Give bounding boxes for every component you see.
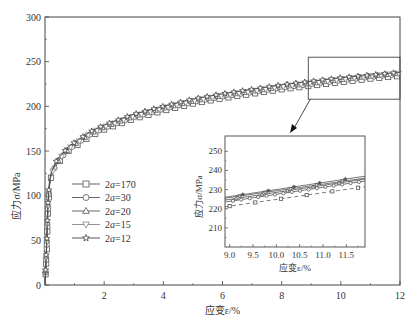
marker-square	[228, 205, 231, 208]
marker-circle	[83, 195, 89, 201]
marker-circle	[240, 198, 243, 201]
y-axis-label: 应力σ/MPa	[10, 172, 22, 220]
marker-circle	[307, 188, 310, 191]
marker-circle	[332, 184, 335, 187]
x-tick-label: 8	[279, 290, 284, 301]
marker-star	[83, 234, 90, 241]
legend-item: 2a=170	[72, 179, 136, 190]
marker-circle	[299, 189, 302, 192]
marker-square	[356, 186, 359, 189]
marker-circle	[357, 180, 360, 183]
inset-y-tick-label: 210	[209, 223, 223, 233]
inset-y-tick-label: 220	[209, 204, 223, 214]
legend-label-suffix: =12	[115, 233, 131, 244]
inset-y-axis-label: 应力σ/MPa	[193, 175, 204, 217]
marker-circle	[257, 195, 260, 198]
marker-triangle-down	[83, 222, 90, 228]
legend-label-suffix: =30	[115, 192, 131, 203]
legend-label-suffix: =15	[115, 219, 131, 230]
y-tick-label: 50	[31, 235, 41, 246]
inset-x-tick-label: 11.0	[315, 250, 331, 260]
marker-square	[83, 181, 89, 187]
inset-x-axis-label: 应变ε/%	[279, 262, 311, 273]
y-tick-label: 100	[26, 190, 41, 201]
marker-triangle-up	[83, 207, 90, 213]
stress-strain-chart: 05010015020025030024681012应变ε/%应力σ/MPa 2…	[0, 0, 412, 321]
legend-label: 2a=170	[105, 179, 136, 190]
inset-y-tick-label: 240	[209, 165, 223, 175]
y-tick-label: 150	[26, 146, 41, 157]
inset-x-tick-label: 9.0	[224, 250, 236, 260]
inset-y-tick-label: 250	[209, 146, 223, 156]
inset-x-tick-label: 10.0	[268, 250, 284, 260]
legend-item: 2a=30	[72, 192, 131, 203]
legend-label: 2a=15	[105, 219, 131, 230]
legend-label: 2a=20	[105, 206, 131, 217]
inset-x-tick-label: 10.5	[292, 250, 308, 260]
zoom-box	[290, 57, 400, 133]
marker-square	[254, 201, 257, 204]
legend-item: 2a=12	[72, 233, 131, 244]
marker-circle	[349, 182, 352, 185]
legend-label-suffix: =20	[115, 206, 131, 217]
marker-circle	[248, 197, 251, 200]
marker-circle	[315, 187, 318, 190]
x-tick-label: 10	[336, 290, 346, 301]
y-tick-label: 250	[26, 56, 41, 67]
inset-y-tick-label: 230	[209, 185, 223, 195]
marker-square	[331, 190, 334, 193]
inset-x-tick-label: 9.5	[247, 250, 259, 260]
marker-square	[279, 197, 282, 200]
marker-circle	[324, 185, 327, 188]
y-tick-label: 200	[26, 101, 41, 112]
marker-circle	[273, 193, 276, 196]
legend: 2a=1702a=302a=202a=152a=12	[72, 179, 136, 244]
x-axis-label: 应变ε/%	[205, 304, 240, 316]
marker-square	[305, 193, 308, 196]
y-tick-label: 0	[36, 280, 41, 291]
inset-x-tick-label: 11.5	[339, 250, 355, 260]
x-tick-label: 12	[395, 290, 405, 301]
x-tick-label: 4	[161, 290, 166, 301]
inset-plot: 2102202302402509.09.510.010.511.011.5应变ε…	[193, 136, 365, 273]
marker-circle	[282, 192, 285, 195]
legend-item: 2a=15	[72, 219, 131, 230]
legend-label-suffix: =170	[115, 179, 136, 190]
y-tick-label: 300	[26, 12, 41, 23]
zoom-arrow-line	[293, 99, 310, 130]
legend-label: 2a=12	[105, 233, 131, 244]
legend-label: 2a=30	[105, 192, 131, 203]
legend-item: 2a=20	[72, 206, 131, 217]
x-tick-label: 6	[220, 290, 225, 301]
x-tick-label: 2	[102, 290, 107, 301]
